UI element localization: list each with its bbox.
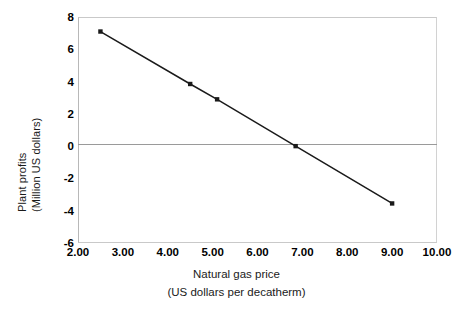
x-tick-label: 2.00 <box>67 246 89 258</box>
plot-area <box>78 17 437 243</box>
y-tick-label: 2 <box>50 108 74 120</box>
y-axis-tick-labels: 86420-2-4-6 <box>48 0 74 260</box>
y-tick-label: 6 <box>50 43 74 55</box>
x-tick-label: 3.00 <box>112 246 134 258</box>
x-tick-label: 5.00 <box>201 246 223 258</box>
x-tick-label: 7.00 <box>291 246 313 258</box>
x-tick-label: 9.00 <box>381 246 403 258</box>
y-axis-title-line1: Plant profits <box>16 153 28 212</box>
y-tick-label: -2 <box>50 172 74 184</box>
x-tick-label: 4.00 <box>157 246 179 258</box>
x-axis-title-line1: Natural gas price <box>0 268 473 280</box>
x-axis-tick-labels: 2.003.004.005.006.007.008.009.0010.00 <box>0 246 473 262</box>
y-tick-label: 8 <box>50 11 74 23</box>
y-tick-label: 0 <box>50 140 74 152</box>
chart-container: Plant profits (Million US dollars) 86420… <box>0 0 473 314</box>
y-tick-label: -4 <box>50 205 74 217</box>
x-axis-title-line2: (US dollars per decatherm) <box>0 286 473 298</box>
y-tick-label: 4 <box>50 76 74 88</box>
x-tick-label: 6.00 <box>246 246 268 258</box>
x-tick-label: 8.00 <box>336 246 358 258</box>
zero-reference-line <box>78 144 437 145</box>
y-axis-title-line2: (Million US dollars) <box>30 118 42 212</box>
x-tick-label: 10.00 <box>423 246 452 258</box>
